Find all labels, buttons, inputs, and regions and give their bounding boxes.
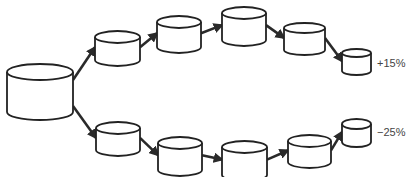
upper-branch-percent-label: +15% [377, 57, 406, 69]
cylinder-top [7, 64, 73, 80]
cylinder-top [342, 119, 371, 129]
cylinder-top [158, 137, 202, 149]
cylinder-nodes [7, 7, 371, 177]
upper-cylinder-3 [222, 7, 266, 46]
arrow-connector [325, 38, 342, 61]
arrow-connector [266, 25, 284, 38]
cylinder-top [222, 141, 267, 153]
arrow-connector [201, 25, 222, 33]
source-cylinder [7, 64, 73, 120]
upper-cylinder-2 [157, 16, 201, 53]
lower-branch-percent-label: −25% [377, 126, 406, 138]
upper-cylinder-5 [342, 49, 371, 75]
upper-cylinder-4 [284, 23, 325, 55]
cylinder-top [96, 122, 140, 134]
cylinder-top [157, 16, 201, 28]
arrow-connector [267, 150, 288, 159]
lower-cylinder-2 [158, 137, 202, 176]
cylinder-top [95, 31, 140, 43]
branching-cylinder-diagram: +15%−25% [0, 0, 413, 177]
arrow-connector [202, 155, 222, 159]
arrow-connector [140, 33, 157, 47]
cylinder-top [284, 23, 325, 33]
arrow-connector [140, 138, 158, 155]
lower-cylinder-1 [96, 122, 140, 156]
lower-cylinder-4 [288, 135, 331, 168]
cylinder-top [342, 49, 371, 57]
upper-cylinder-1 [95, 31, 140, 66]
arrow-connector [73, 47, 95, 80]
arrow-connector [331, 132, 342, 150]
lower-cylinder-3 [222, 141, 267, 177]
cylinder-top [222, 7, 266, 19]
arrow-connector [73, 106, 96, 138]
branch-labels: +15%−25% [377, 57, 406, 138]
lower-cylinder-5 [342, 119, 371, 147]
cylinder-top [288, 135, 331, 147]
